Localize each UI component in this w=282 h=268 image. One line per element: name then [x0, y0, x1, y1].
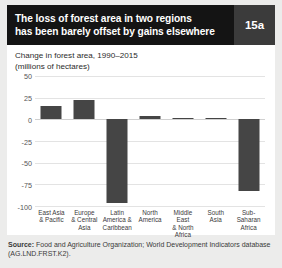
source-note: Source: Food and Agriculture Organizatio… [7, 240, 275, 258]
gridline: -50 [35, 163, 265, 164]
axis-area: 50250-25-50-75-100 [35, 76, 265, 206]
x-axis-label: East Asia& Pacific [35, 207, 68, 234]
gridline: 50 [35, 76, 265, 77]
figure-container: The loss of forest area in two regions h… [0, 0, 282, 268]
y-axis-tick-label: -50 [22, 159, 32, 168]
x-axis-label: NorthAmerica [134, 207, 167, 234]
gridline: -75 [35, 184, 265, 185]
y-axis-tick-label: -25 [22, 137, 32, 146]
gridline: -25 [35, 141, 265, 142]
x-axis-label: SouthAsia [199, 207, 232, 234]
y-axis-tick-label: 25 [24, 93, 32, 102]
plot-area: 50250-25-50-75-100 East Asia& PacificEur… [11, 76, 269, 234]
page-title: The loss of forest area in two regions h… [7, 12, 231, 39]
x-axis-labels: East Asia& PacificEurope& CentralAsiaLat… [35, 207, 265, 234]
gridline: 0 [35, 119, 265, 120]
figure-number-badge: 15a [234, 5, 275, 45]
title-line-1: The loss of forest area in two regions [15, 12, 223, 26]
y-axis-tick-label: 0 [28, 115, 32, 124]
x-axis-label: LatinAmerica &Caribbean [101, 207, 134, 234]
chart-panel: Change in forest area, 1990–2015 (millio… [7, 45, 275, 235]
chart-title-text: Change in forest area, 1990–2015 [15, 51, 138, 60]
y-axis-tick-label: -100 [18, 203, 32, 212]
source-text: Food and Agriculture Organization; World… [8, 241, 271, 257]
y-axis-tick-label: -75 [22, 181, 32, 190]
gridline: 25 [35, 98, 265, 99]
figure-header: The loss of forest area in two regions h… [7, 5, 275, 45]
chart-subtitle: Change in forest area, 1990–2015 (millio… [11, 51, 269, 72]
chart-units-text: (millions of hectares) [15, 62, 269, 73]
x-axis-label: Middle East& NorthAfrica [166, 207, 199, 234]
x-axis-label: Europe& CentralAsia [68, 207, 101, 234]
title-line-2: has been barely offset by gains elsewher… [15, 25, 223, 39]
x-axis-label: Sub-SaharanAfrica [232, 207, 265, 234]
y-axis-tick-label: 50 [24, 72, 32, 81]
badge-container: 15a [231, 5, 275, 45]
source-label: Source: [8, 241, 34, 248]
